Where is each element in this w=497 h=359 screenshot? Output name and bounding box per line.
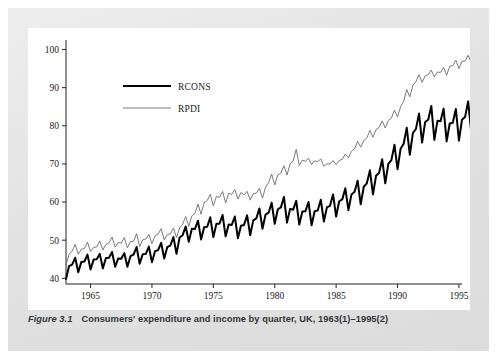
y-axis-tick-label: 90 — [50, 83, 60, 93]
figure-caption-text: Consumers' expenditure and income by qua… — [81, 314, 388, 324]
y-axis: 405060708090100 — [45, 40, 66, 284]
x-axis: 1965197019751980198519901995 — [66, 284, 469, 301]
y-axis-tick-label: 50 — [50, 236, 60, 246]
series-line-rpdi — [66, 47, 470, 265]
y-axis-tick-label: 60 — [50, 197, 60, 207]
legend-label-rpdi: RPDI — [178, 104, 200, 114]
legend-label-rcons: RCONS — [178, 82, 211, 92]
figure-caption-number: Figure 3.1 — [28, 314, 72, 324]
line-chart-svg: 405060708090100 196519701975198019851990… — [28, 28, 470, 310]
chart-series-group — [66, 47, 470, 279]
chart-legend: RCONSRPDI — [123, 82, 211, 114]
x-axis-tick-label: 1985 — [327, 291, 346, 301]
x-axis-tick-label: 1970 — [142, 291, 161, 301]
y-axis-tick-label: 80 — [50, 121, 60, 131]
y-axis-tick-label: 100 — [45, 45, 60, 55]
x-axis-tick-label: 1975 — [204, 291, 223, 301]
chart-plot-panel: 405060708090100 196519701975198019851990… — [28, 28, 470, 310]
y-axis-tick-label: 70 — [50, 159, 60, 169]
x-axis-tick-label: 1980 — [265, 291, 284, 301]
x-axis-tick-label: 1965 — [81, 291, 100, 301]
series-line-rcons — [66, 80, 470, 279]
figure-frame: 405060708090100 196519701975198019851990… — [8, 8, 489, 351]
x-axis-tick-label: 1995 — [449, 291, 468, 301]
x-axis-tick-label: 1990 — [388, 291, 407, 301]
figure-caption: Figure 3.1Consumers' expenditure and inc… — [28, 314, 478, 324]
y-axis-tick-label: 40 — [50, 274, 60, 284]
